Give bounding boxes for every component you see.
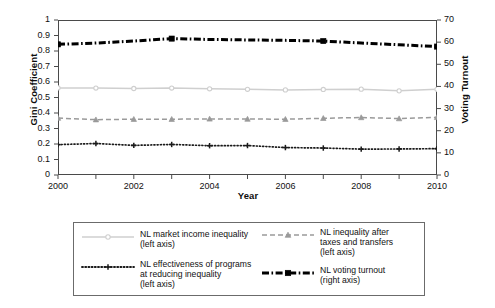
y-axis-left-tick: 0.8 (24, 45, 50, 55)
x-axis-tick: 2000 (38, 181, 78, 191)
series-line-3 (58, 39, 437, 47)
y-axis-right-tick: 20 (444, 125, 470, 135)
x-axis-tick: 2002 (114, 181, 154, 191)
legend-label-effectiveness-of-programs: NL effectiveness of programs at reducing… (136, 259, 251, 290)
y-axis-right-tick: 40 (444, 80, 470, 90)
x-axis-tick: 2008 (341, 181, 381, 191)
legend-item-effectiveness-of-programs: NL effectiveness of programs at reducing… (80, 259, 251, 290)
y-axis-left-tick: 0.9 (24, 30, 50, 40)
y-axis-left-tick: 0.7 (24, 61, 50, 71)
legend-swatch-market-income-inequality (80, 230, 136, 244)
y-axis-left-tick: 0.3 (24, 123, 50, 133)
legend-label-inequality-after-taxes: NL inequality after taxes and transfers … (316, 227, 393, 258)
y-axis-left-tick: 0.2 (24, 138, 50, 148)
y-axis-left-tick: 0.1 (24, 154, 50, 164)
chart-container: Gini Coefficient Voting Turnout Year 00.… (0, 0, 495, 308)
y-axis-left-tick: 0.4 (24, 107, 50, 117)
legend-swatch-inequality-after-taxes (260, 228, 316, 242)
series-plot (58, 20, 437, 175)
y-axis-right-tick: 50 (444, 58, 470, 68)
y-axis-right-tick: 70 (444, 14, 470, 24)
legend-label-market-income-inequality: NL market income inequality (left axis) (136, 229, 248, 249)
x-axis-tick: 2006 (265, 181, 305, 191)
y-axis-left-tick: 1 (24, 14, 50, 24)
y-axis-right-tick: 30 (444, 103, 470, 113)
legend-item-voting-turnout: NL voting turnout (right axis) (260, 265, 385, 285)
x-axis-tick: 2004 (190, 181, 230, 191)
y-axis-left-tick: 0.6 (24, 76, 50, 86)
y-axis-right-tick: 10 (444, 147, 470, 157)
legend-label-voting-turnout: NL voting turnout (right axis) (316, 265, 385, 285)
y-axis-right-tick: 0 (444, 169, 470, 179)
legend-item-market-income-inequality: NL market income inequality (left axis) (80, 229, 248, 249)
chart-legend: NL market income inequality (left axis) … (73, 222, 425, 296)
y-axis-left-tick: 0.5 (24, 92, 50, 102)
y-axis-right-tick: 60 (444, 36, 470, 46)
x-axis-tick: 2010 (417, 181, 457, 191)
legend-swatch-voting-turnout (260, 266, 316, 280)
y-axis-left-tick: 0 (24, 169, 50, 179)
legend-item-inequality-after-taxes: NL inequality after taxes and transfers … (260, 227, 393, 258)
legend-swatch-effectiveness-of-programs (80, 260, 136, 274)
